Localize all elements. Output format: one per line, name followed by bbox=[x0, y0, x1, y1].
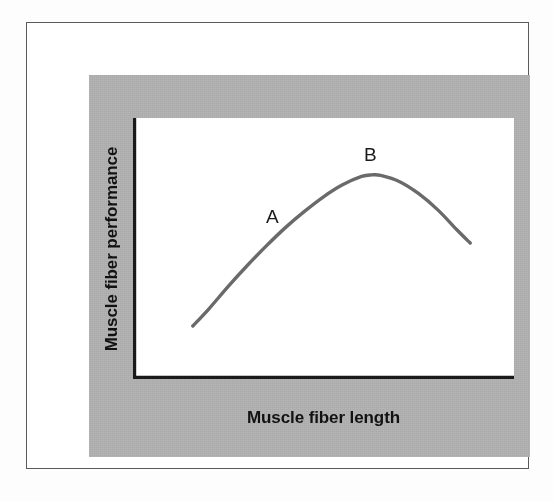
plot-svg bbox=[133, 118, 514, 379]
figure-root: Muscle fiber performance Muscle fiber le… bbox=[0, 0, 553, 502]
plot-area: A B bbox=[133, 118, 514, 379]
y-axis-title: Muscle fiber performance bbox=[97, 118, 127, 380]
performance-curve bbox=[193, 175, 470, 326]
curve-annotation-a: A bbox=[266, 207, 279, 226]
figure-outer-frame: Muscle fiber performance Muscle fiber le… bbox=[26, 22, 529, 469]
axis-lines bbox=[135, 118, 514, 377]
curve-annotation-b: B bbox=[364, 145, 377, 164]
x-axis-title: Muscle fiber length bbox=[133, 408, 514, 428]
